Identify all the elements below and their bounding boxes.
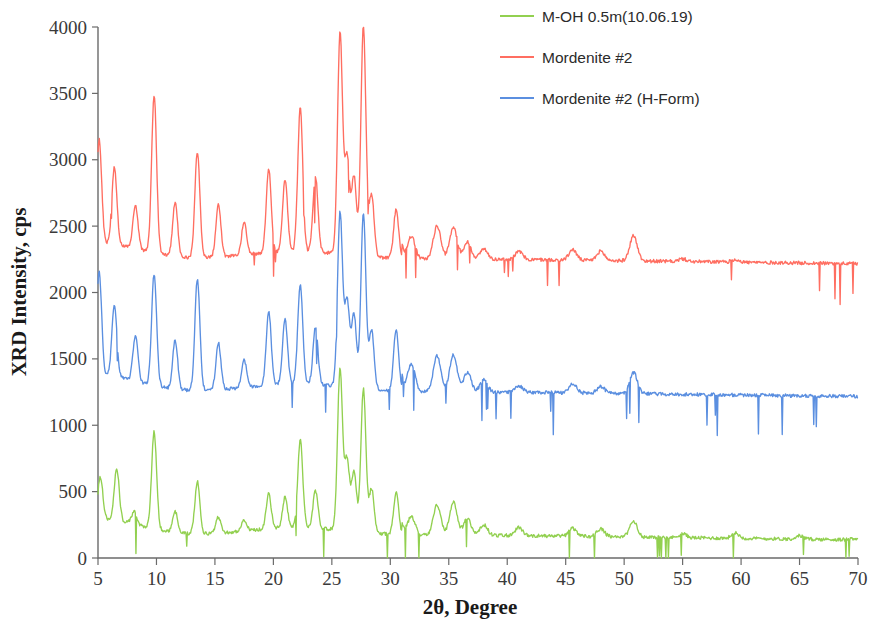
series-trace [98, 211, 857, 435]
y-axis-title: XRD Intensity, cps [7, 208, 31, 377]
legend-label: Mordenite #2 [542, 49, 632, 66]
x-tick-label: 55 [673, 568, 692, 589]
x-tick-label: 70 [849, 568, 868, 589]
x-tick-label: 25 [322, 568, 341, 589]
legend-label: Mordenite #2 (H-Form) [542, 90, 700, 107]
x-tick-label: 65 [790, 568, 809, 589]
xrd-chart: 0500100015002000250030003500400051015202… [0, 0, 871, 626]
y-tick-label: 500 [59, 481, 88, 502]
x-tick-label: 40 [498, 568, 517, 589]
axis-layer: 0500100015002000250030003500400051015202… [49, 17, 868, 590]
y-tick-label: 3500 [49, 83, 87, 104]
y-tick-label: 2500 [49, 216, 87, 237]
y-tick-label: 4000 [49, 17, 87, 38]
chart-canvas: 0500100015002000250030003500400051015202… [0, 0, 871, 626]
y-tick-label: 3000 [49, 149, 87, 170]
x-tick-label: 35 [439, 568, 458, 589]
y-tick-label: 2000 [49, 282, 87, 303]
x-tick-label: 15 [205, 568, 224, 589]
x-tick-label: 30 [381, 568, 400, 589]
x-tick-label: 5 [93, 568, 103, 589]
legend-layer: M-OH 0.5m(10.06.19)Mordenite #2Mordenite… [500, 8, 700, 107]
trace-layer [98, 27, 857, 557]
series-trace [98, 27, 857, 304]
x-axis-title: 2θ, Degree [423, 595, 518, 619]
y-tick-label: 1500 [49, 348, 87, 369]
x-tick-label: 50 [615, 568, 634, 589]
y-tick-label: 1000 [49, 415, 87, 436]
x-tick-label: 10 [147, 568, 166, 589]
x-tick-label: 60 [732, 568, 751, 589]
x-tick-label: 20 [264, 568, 283, 589]
legend-label: M-OH 0.5m(10.06.19) [542, 8, 693, 25]
y-tick-label: 0 [78, 548, 88, 569]
x-tick-label: 45 [556, 568, 575, 589]
